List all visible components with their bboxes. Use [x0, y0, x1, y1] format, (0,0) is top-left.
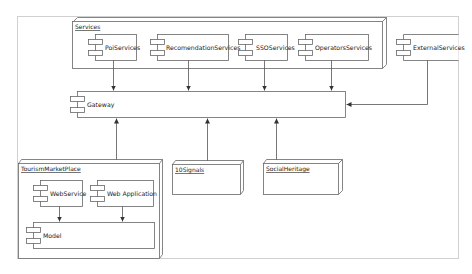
webapplication-label: Web Application	[107, 190, 157, 198]
component-externalservices[interactable]: ExternalServices	[397, 35, 465, 61]
component-webservice[interactable]: WebService	[34, 181, 87, 207]
component-icon	[89, 40, 103, 45]
component-icon	[397, 51, 411, 56]
webservice-label: WebService	[50, 190, 87, 197]
component-icon	[89, 51, 103, 56]
diagram-canvas: Services PoiServices RecomendationServic…	[0, 0, 472, 274]
node-tourismmarketplace-label: TourismMarketPlace	[20, 165, 81, 172]
node-socialheritage-label: SocialHeritage	[266, 165, 310, 173]
component-model[interactable]: Model	[27, 223, 155, 249]
operatorsservices-label: OperatorsServices	[315, 44, 372, 52]
component-recomendationservices[interactable]: RecomendationServices	[151, 35, 241, 61]
component-icon	[27, 228, 41, 233]
component-webapplication[interactable]: Web Application	[91, 181, 158, 207]
component-icon	[71, 97, 85, 102]
component-ssoservices[interactable]: SSOServices	[239, 35, 295, 61]
component-operatorsservices[interactable]: OperatorsServices	[299, 35, 373, 61]
node-10signals[interactable]: 10Signals	[173, 161, 244, 195]
component-icon	[151, 40, 165, 45]
node-socialheritage[interactable]: SocialHeritage	[264, 160, 343, 195]
component-icon	[27, 239, 41, 244]
component-icon	[397, 40, 411, 45]
component-icon	[71, 108, 85, 113]
node-services-label: Services	[75, 23, 100, 30]
model-label: Model	[43, 232, 62, 239]
component-icon	[91, 197, 105, 202]
component-icon	[34, 197, 48, 202]
component-icon	[151, 51, 165, 56]
gateway-label: Gateway	[87, 101, 115, 109]
component-poiservices[interactable]: PoiServices	[89, 35, 141, 61]
component-icon	[239, 51, 253, 56]
recomendationservices-label: RecomendationServices	[166, 44, 240, 51]
node-10signals-label: 10Signals	[175, 166, 204, 174]
externalservices-label: ExternalServices	[413, 44, 465, 51]
poiservices-label: PoiServices	[105, 44, 140, 51]
ssoservices-label: SSOServices	[256, 44, 295, 51]
component-gateway[interactable]: Gateway	[71, 92, 346, 118]
component-icon	[299, 40, 313, 45]
edges-nodes-to-gateway	[117, 119, 277, 162]
component-icon	[299, 51, 313, 56]
component-icon	[91, 186, 105, 191]
component-icon	[239, 40, 253, 45]
component-icon	[34, 186, 48, 191]
